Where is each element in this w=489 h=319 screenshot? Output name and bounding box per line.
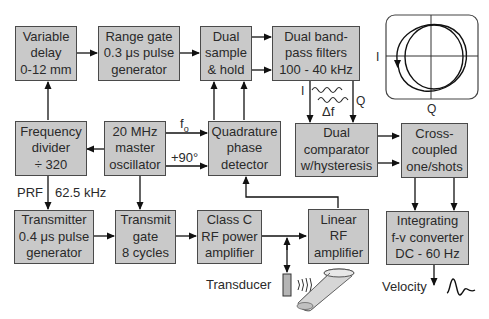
block-text: & hold [208,62,245,79]
label-transducer: Transducer [206,278,271,292]
block-text: Variable [23,29,70,46]
block-text: Class C [207,212,253,229]
block-linear-rf-amplifier: Linear RF amplifier [308,209,369,264]
block-dual-sample-hold: Dual sample & hold [200,26,252,81]
block-text: 0.4 μs pulse [19,229,89,246]
block-integrating-fv-converter: Integrating f-v converter DC - 60 Hz [386,211,469,265]
block-text: Frequency [20,124,81,141]
block-text: Linear [320,212,356,229]
label-delta-f: Δf [322,105,334,119]
block-text: 8 cycles [122,245,169,262]
label-scope-q: Q [427,102,436,116]
block-text: Integrating [397,213,458,230]
block-text: Transmit [120,212,170,229]
iq-waveforms [312,88,348,103]
transducer-graphic [283,269,354,311]
block-text: Cross- [415,126,453,143]
scope-display [386,15,478,99]
velocity-waveform [447,279,475,295]
block-transmitter: Transmitter 0.4 μs pulse generator [14,210,94,264]
block-text: oscillator [109,157,160,174]
block-transmit-gate: Transmit gate 8 cycles [115,210,176,264]
block-text: sample [205,45,247,62]
block-text: gate [133,229,158,246]
block-text: amplifier [205,245,254,262]
block-text: 0-12 mm [20,62,71,79]
block-text: f-v converter [391,230,463,247]
label-prf: PRF [17,186,43,200]
block-text: DC - 60 Hz [395,246,459,263]
block-text: RF [330,228,347,245]
block-text: Dual [213,29,240,46]
label-i-signal: I [301,84,304,98]
block-class-c-rf-amplifier: Class C RF power amplifier [197,210,262,264]
block-text: comparator [304,142,370,159]
block-text: one/shots [406,159,462,176]
block-text: delay [30,45,61,62]
block-text: Range gate [105,29,172,46]
label-velocity: Velocity [382,280,427,294]
block-quadrature-phase-detector: Quadrature phase detector [208,121,281,176]
block-text: 0.3 μs pulse [104,45,174,62]
block-text: generator [26,245,82,262]
label-prf-value: 62.5 kHz [55,186,106,200]
block-range-gate: Range gate 0.3 μs pulse generator [98,26,180,81]
block-frequency-divider: Frequency divider ÷ 320 [15,121,87,176]
block-text: Dual band- [284,29,348,46]
block-cross-coupled-one-shots: Cross- coupled one/shots [401,123,468,178]
block-text: detector [221,157,268,174]
block-text: amplifier [314,245,363,262]
label-scope-i: I [376,50,379,64]
block-text: master [115,140,155,157]
block-text: w/hysteresis [301,158,373,175]
label-plus90: +90° [171,151,198,165]
label-q-signal: Q [356,94,365,108]
block-text: coupled [412,142,458,159]
block-text: divider [32,140,70,157]
f0-subscript: o [184,124,189,134]
block-variable-delay: Variable delay 0-12 mm [15,26,77,81]
block-text: generator [111,62,167,79]
block-text: pass filters [285,45,347,62]
block-text: Quadrature [212,124,278,141]
block-text: Transmitter [21,212,86,229]
block-text: ÷ 320 [35,157,67,174]
block-text: RF power [201,229,257,246]
block-text: phase [227,140,262,157]
block-master-oscillator: 20 MHz master oscillator [104,121,166,176]
label-f0: fo [180,117,189,136]
block-text: 100 - 40 kHz [279,62,353,79]
block-text: 20 MHz [113,124,158,141]
block-dual-bandpass-filters: Dual band- pass filters 100 - 40 kHz [272,26,360,81]
block-text: Dual [323,125,350,142]
block-dual-comparator: Dual comparator w/hysteresis [295,123,378,177]
